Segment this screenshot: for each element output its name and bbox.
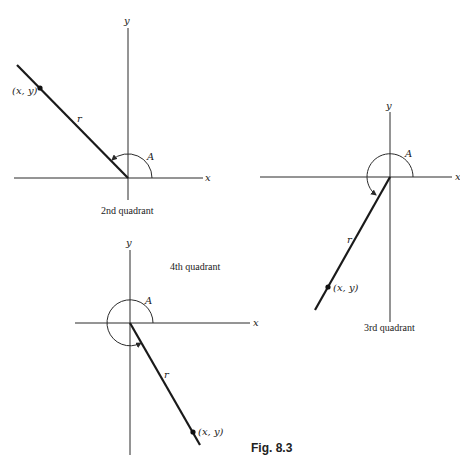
- point-marker: [190, 429, 195, 434]
- angle-arc: [112, 154, 152, 178]
- y-axis-label: y: [385, 100, 392, 111]
- diagram-third-quadrant: x y (x, y) r A 3rd quadrant: [260, 100, 460, 333]
- radius-label: r: [77, 113, 83, 124]
- x-axis-label: x: [253, 317, 259, 328]
- point-label: (x, y): [333, 282, 359, 293]
- point-marker: [325, 284, 330, 289]
- point-marker: [37, 85, 42, 90]
- point-label: (x, y): [12, 85, 38, 96]
- x-axis-label: x: [455, 171, 460, 182]
- angle-label: A: [144, 295, 152, 306]
- point-label: (x, y): [198, 426, 224, 437]
- y-axis-label: y: [123, 15, 130, 26]
- radius-ray: [130, 323, 200, 445]
- quadrant-label: 2nd quadrant: [101, 205, 154, 216]
- radius-label: r: [164, 369, 170, 380]
- quadrant-label: 3rd quadrant: [364, 322, 415, 333]
- diagram-second-quadrant: x y (x, y) r A 2nd quadrant: [12, 15, 211, 216]
- diagram-fourth-quadrant: x y (x, y) r A 4th quadrant: [75, 237, 259, 455]
- quadrant-label: 4th quadrant: [170, 261, 220, 272]
- figure-caption: Fig. 8.3: [251, 441, 293, 455]
- figure-canvas: x y (x, y) r A 2nd quadrant x y (x, y) r…: [0, 0, 460, 460]
- x-axis-label: x: [205, 172, 211, 183]
- angle-label: A: [404, 148, 412, 159]
- angle-label: A: [146, 151, 154, 162]
- radius-ray: [17, 65, 128, 178]
- y-axis-label: y: [125, 237, 132, 248]
